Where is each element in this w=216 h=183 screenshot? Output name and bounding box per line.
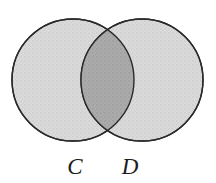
- venn-diagram-canvas: [0, 0, 216, 183]
- set-label-c: C: [60, 155, 90, 178]
- venn-diagram-figure: C D: [0, 0, 216, 183]
- set-label-d: D: [115, 155, 145, 178]
